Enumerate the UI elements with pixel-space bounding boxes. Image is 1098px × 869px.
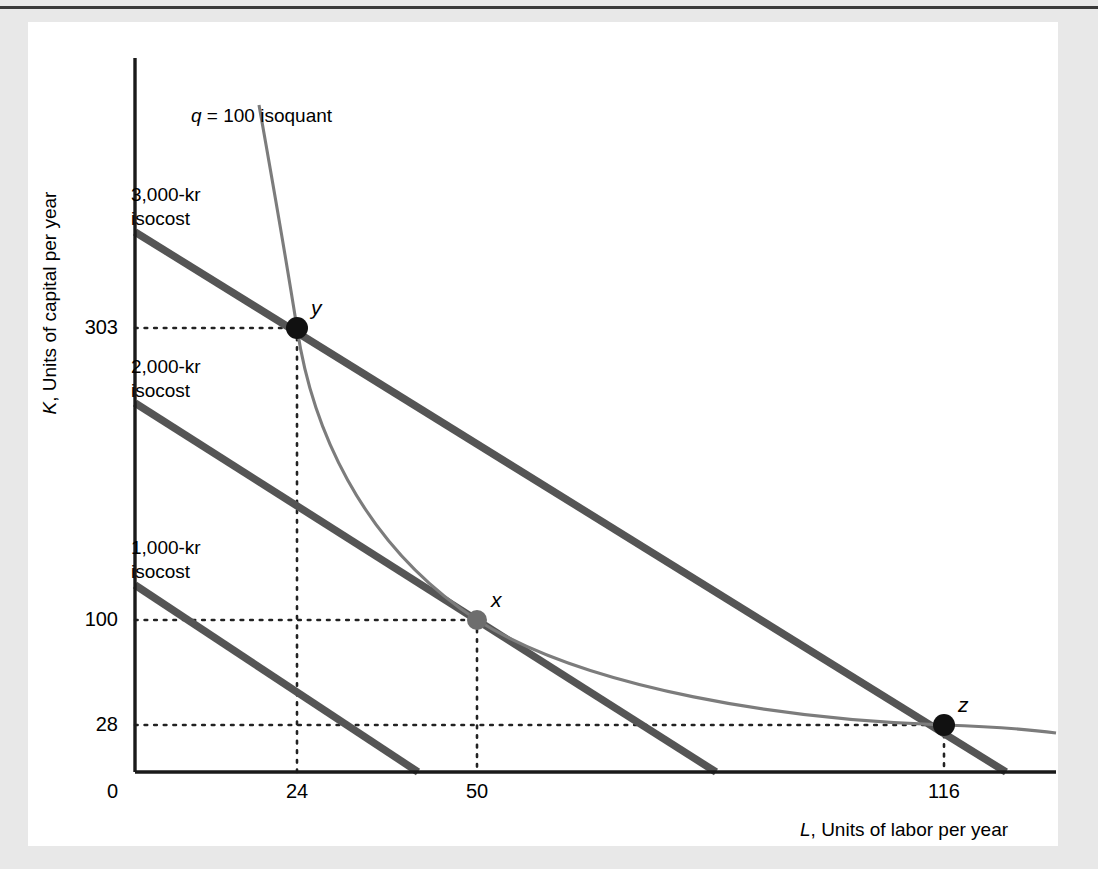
- data-point-x: [467, 610, 487, 630]
- guide-lines: [135, 328, 944, 772]
- x-axis-title: L, Units of labor per year: [800, 819, 1008, 841]
- y-tick-303: 303: [48, 316, 118, 339]
- x-tick-24: 24: [257, 780, 337, 803]
- y-tick-100: 100: [48, 608, 118, 631]
- figure-frame: K, Units of capital per year L, Units of…: [0, 0, 1098, 869]
- data-point-z: [933, 714, 955, 736]
- origin-label: 0: [48, 780, 118, 803]
- point-label-z: z: [958, 693, 969, 717]
- isocost-line-1000: [135, 585, 418, 772]
- isocost-line-3000: [135, 232, 1006, 772]
- x-axis-title-text: , Units of labor per year: [811, 819, 1008, 840]
- point-label-y: y: [311, 296, 322, 320]
- isocost-label-1000: 1,000-kr isocost: [131, 536, 201, 585]
- y-tick-28: 28: [48, 713, 118, 736]
- isocost-line-2000: [135, 403, 716, 772]
- isocost-lines: [135, 232, 1006, 772]
- x-tick-116: 116: [904, 780, 984, 803]
- isocost-label-2000: 2,000-kr isocost: [131, 355, 201, 404]
- plot-card: K, Units of capital per year L, Units of…: [28, 22, 1058, 846]
- x-tick-50: 50: [437, 780, 517, 803]
- frame-top-rule: [0, 6, 1098, 9]
- y-axis-title: K, Units of capital per year: [39, 133, 61, 473]
- point-label-x: x: [491, 588, 502, 612]
- isoquant-label: q = 100 isoquant: [191, 80, 332, 129]
- data-point-y: [286, 317, 308, 339]
- isocost-label-3000: 3,000-kr isocost: [131, 183, 201, 232]
- isoquant-isocost-chart: [28, 22, 1058, 846]
- y-axis-title-text: , Units of capital per year: [39, 192, 60, 402]
- isoquant-curve-q100: [259, 105, 1056, 733]
- axis-lines: [135, 58, 1056, 772]
